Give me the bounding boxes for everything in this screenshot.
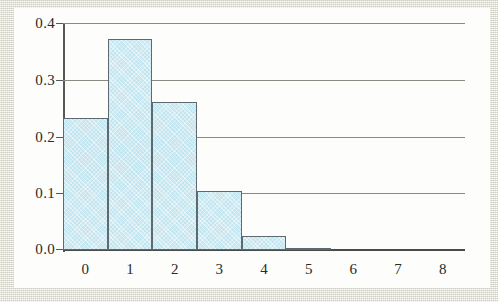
x-axis-tick-label: 4 xyxy=(260,261,268,278)
page-sheet: 0.00.10.20.30.4 012345678 xyxy=(14,8,490,288)
y-axis-tick xyxy=(56,249,63,250)
x-axis-tick-label: 3 xyxy=(216,261,224,278)
y-axis-tick-label: 0.4 xyxy=(35,15,55,32)
histogram-bar xyxy=(197,191,242,250)
histogram-bar xyxy=(242,236,287,250)
histogram-chart: 0.00.10.20.30.4 012345678 xyxy=(14,8,490,288)
y-axis-tick xyxy=(56,137,63,138)
y-axis-tick-label: 0.2 xyxy=(35,128,55,145)
scanned-page-border: 0.00.10.20.30.4 012345678 xyxy=(0,0,498,302)
gridline: 0.4 xyxy=(63,23,465,24)
x-axis-tick-label: 1 xyxy=(126,261,134,278)
y-axis-tick-label: 0.1 xyxy=(35,185,55,202)
y-axis-tick xyxy=(56,23,63,24)
x-axis-tick-label: 6 xyxy=(350,261,358,278)
plot-area: 0.00.10.20.30.4 xyxy=(63,23,465,250)
histogram-bar xyxy=(152,102,197,250)
histogram-bar xyxy=(286,248,331,250)
y-axis-tick xyxy=(56,80,63,81)
x-axis-tick-label: 2 xyxy=(171,261,179,278)
y-axis-tick xyxy=(56,193,63,194)
x-axis-tick-label: 7 xyxy=(394,261,402,278)
y-axis-tick-label: 0.3 xyxy=(35,71,55,88)
histogram-bar xyxy=(108,39,153,250)
x-axis-tick-label: 8 xyxy=(439,261,447,278)
x-axis-tick-label: 5 xyxy=(305,261,313,278)
x-axis-tick-label: 0 xyxy=(82,261,90,278)
y-axis-tick-label: 0.0 xyxy=(35,241,55,258)
histogram-bar xyxy=(63,118,108,250)
